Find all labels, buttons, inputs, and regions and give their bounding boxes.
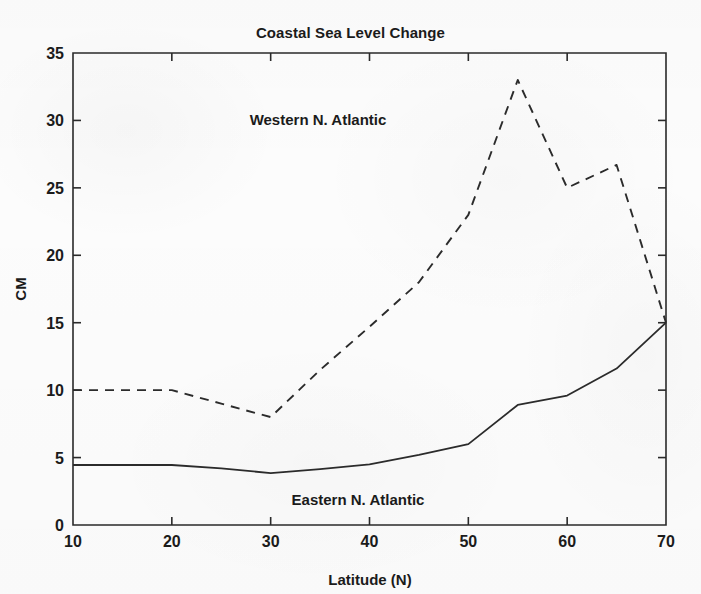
y-tick-label: 35 bbox=[46, 45, 64, 62]
y-tick-label: 10 bbox=[46, 382, 64, 399]
y-tick-label: 25 bbox=[46, 180, 64, 197]
x-tick-labels: 10203040506070 bbox=[64, 533, 675, 550]
x-tick-label: 30 bbox=[262, 533, 280, 550]
y-tick-label: 0 bbox=[55, 517, 64, 534]
x-axis-title: Latitude (N) bbox=[328, 571, 411, 588]
x-tick-label: 70 bbox=[657, 533, 675, 550]
series-line-western-n-atlantic bbox=[73, 80, 666, 417]
x-tick-label: 10 bbox=[64, 533, 82, 550]
chart-plot: 10203040506070 05101520253035 Latitude (… bbox=[0, 0, 701, 594]
x-tick-label: 60 bbox=[558, 533, 576, 550]
y-tick-label: 20 bbox=[46, 247, 64, 264]
annotation-western-n-atlantic: Western N. Atlantic bbox=[250, 111, 387, 128]
y-tick-label: 15 bbox=[46, 315, 64, 332]
annotation-eastern-n-atlantic: Eastern N. Atlantic bbox=[292, 491, 425, 508]
y-tick-label: 5 bbox=[55, 450, 64, 467]
x-tick-label: 50 bbox=[459, 533, 477, 550]
y-axis-title: CM bbox=[12, 277, 29, 300]
series-line-eastern-n-atlantic bbox=[73, 323, 666, 473]
x-tick-label: 20 bbox=[163, 533, 181, 550]
figure-container: Coastal Sea Level Change 10203040506070 … bbox=[0, 0, 701, 594]
y-tick-label: 30 bbox=[46, 112, 64, 129]
y-tick-labels: 05101520253035 bbox=[46, 45, 64, 534]
x-tick-label: 40 bbox=[361, 533, 379, 550]
